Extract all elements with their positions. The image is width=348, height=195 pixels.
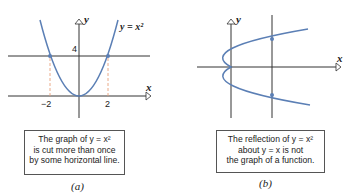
caption-box-b: The reflection of y = x² about y = x is … xyxy=(216,130,325,173)
y-axis-label-b: y xyxy=(236,13,241,25)
panel-label-a: (a) xyxy=(71,180,84,192)
tick-label-2: 2 xyxy=(105,99,110,109)
x-axis-label-a: x xyxy=(146,81,152,93)
panel-b-graph xyxy=(197,15,341,118)
caption-a-line-1: The graph of y = x² xyxy=(25,134,124,145)
tick-label-4: 4 xyxy=(72,44,77,54)
intersection-point-top xyxy=(270,37,274,41)
caption-b-line-3: the graph of a function. xyxy=(217,155,324,166)
y-arrow-icon xyxy=(227,19,235,24)
caption-b-line-2: about y = x is not xyxy=(217,145,324,156)
intersection-point-right xyxy=(106,54,110,58)
caption-b-line-1: The reflection of y = x² xyxy=(217,134,324,145)
caption-a-line-3: by some horizontal line. xyxy=(25,155,124,166)
tick-label-neg2: −2 xyxy=(41,99,51,109)
panel-label-b: (b) xyxy=(259,177,272,189)
curve-label: y = x² xyxy=(120,21,143,32)
intersection-point-bottom xyxy=(270,93,274,97)
caption-a-line-2: is cut more than once xyxy=(25,145,124,156)
y-arrow-icon xyxy=(75,19,83,24)
x-arrow-icon xyxy=(146,92,151,100)
x-arrow-icon xyxy=(336,63,341,71)
intersection-point-left xyxy=(48,54,52,58)
panel-a-graph xyxy=(8,19,151,118)
x-axis-label-b: x xyxy=(337,52,343,64)
caption-box-a: The graph of y = x² is cut more than onc… xyxy=(24,130,125,175)
y-axis-label-a: y xyxy=(84,13,89,25)
